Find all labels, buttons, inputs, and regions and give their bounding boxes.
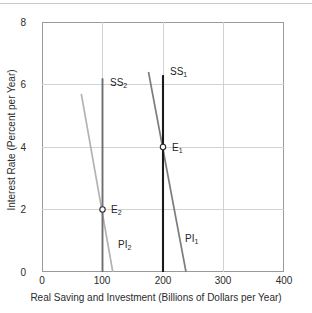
point-label-e1-text: E <box>172 142 179 153</box>
x-tick-label-300: 300 <box>203 276 243 286</box>
point-label-e1: E1 <box>172 143 183 154</box>
series-label-ss1-text: SS <box>170 66 183 77</box>
y-axis-title: Interest Rate (Percent per Year) <box>6 69 17 210</box>
point-label-e2: E2 <box>111 205 122 216</box>
x-tick-label-100: 100 <box>82 276 122 286</box>
series-label-ss1: SS1 <box>170 67 187 78</box>
point-label-e2-text: E <box>111 204 118 215</box>
curves-layer <box>42 22 284 272</box>
series-label-pi2-sub: 2 <box>127 244 131 251</box>
series-label-ss2: SS2 <box>110 78 127 89</box>
x-tick-label-0: 0 <box>22 276 62 286</box>
series-line-pi1 <box>149 72 187 272</box>
top-divider <box>0 3 312 4</box>
x-axis-title: Real Saving and Investment (Billions of … <box>0 292 312 303</box>
series-line-pi2 <box>81 94 113 272</box>
figure-container: 8 6 4 2 0 0 100 200 300 400 Interest Rat… <box>0 0 312 313</box>
plot-area: SS2 SS1 PI2 PI1 E1 E2 <box>42 22 284 272</box>
point-label-e1-sub: 1 <box>179 147 183 154</box>
point-marker-e1 <box>160 144 165 149</box>
series-label-pi2: PI2 <box>118 240 131 251</box>
point-marker-e2 <box>100 207 105 212</box>
series-label-pi1: PI1 <box>185 234 198 245</box>
x-tick-label-200: 200 <box>143 276 183 286</box>
series-label-ss2-sub: 2 <box>123 82 127 89</box>
series-label-pi1-sub: 1 <box>194 238 198 245</box>
series-label-ss1-sub: 1 <box>183 71 187 78</box>
y-axis-title-wrap: Interest Rate (Percent per Year) <box>0 0 22 280</box>
point-label-e2-sub: 2 <box>118 209 122 216</box>
x-tick-label-400: 400 <box>264 276 304 286</box>
series-label-ss2-text: SS <box>110 77 123 88</box>
